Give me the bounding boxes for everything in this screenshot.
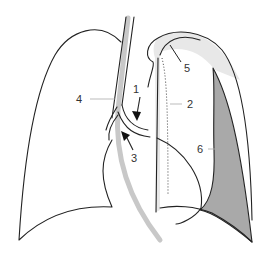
label-5: 5 (184, 62, 190, 74)
label-4: 4 (76, 93, 82, 105)
pleural-effusion-region (200, 68, 252, 242)
diaphragm-curve-upper (157, 138, 202, 224)
label-6: 6 (197, 143, 203, 155)
label-1: 1 (133, 83, 139, 95)
label-3: 3 (131, 152, 137, 164)
arrow-1 (132, 97, 141, 121)
label-2: 2 (187, 98, 193, 110)
arrow-3 (121, 131, 133, 150)
trachea-band (117, 18, 160, 240)
lung-diagram: 1 2 3 4 5 6 (0, 0, 264, 257)
dotted-pleural-line (162, 58, 168, 195)
left-lung-outline (19, 30, 121, 240)
